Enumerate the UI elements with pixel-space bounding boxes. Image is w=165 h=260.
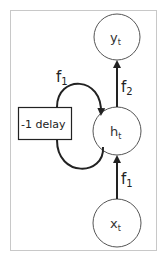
edge-f2-label: f2 bbox=[121, 78, 133, 97]
edge-f1-recurrent-label: f1 bbox=[56, 68, 68, 87]
edge-f1-input-label: f1 bbox=[121, 170, 133, 189]
rnn-diagram: yt ht xt f2 f1 -1 delay f1 bbox=[0, 0, 165, 260]
delay-box: -1 delay bbox=[19, 108, 72, 140]
edge-hidden-to-delay bbox=[57, 140, 103, 169]
input-node-subscript: t bbox=[118, 224, 121, 233]
output-node-y: yt bbox=[94, 14, 140, 60]
output-node-subscript: t bbox=[118, 38, 121, 47]
hidden-node-subscript: t bbox=[118, 132, 121, 141]
delay-box-label: -1 delay bbox=[21, 118, 66, 131]
hidden-node-h: ht bbox=[93, 107, 141, 155]
hidden-node-label: h bbox=[110, 124, 118, 139]
input-node-x: xt bbox=[93, 199, 141, 247]
